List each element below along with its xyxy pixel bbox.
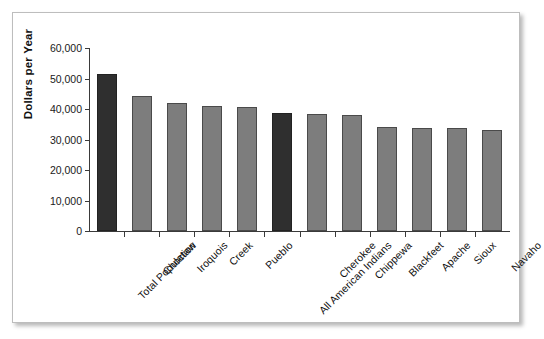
x-tick-label: Apache (439, 239, 473, 273)
bar (412, 128, 432, 231)
x-tick-mark (229, 232, 230, 237)
x-tick-label: Choctaw (160, 239, 198, 277)
y-axis-line (89, 48, 90, 231)
bar (97, 74, 117, 231)
x-tick-label: Iroquois (194, 239, 229, 274)
bar (482, 130, 502, 231)
x-tick-mark (335, 232, 336, 237)
y-tick-label: 40,000 (17, 103, 89, 115)
x-tick-mark (194, 232, 195, 237)
bar (307, 114, 327, 231)
y-tick-mark (85, 48, 89, 49)
y-tick-mark (85, 79, 89, 80)
bar (167, 103, 187, 231)
y-tick-mark (85, 109, 89, 110)
bar (237, 107, 257, 231)
bar (342, 115, 362, 231)
y-tick-label: 20,000 (17, 164, 89, 176)
x-tick-label: Creek (226, 239, 255, 268)
y-tick-label: 30,000 (17, 134, 89, 146)
y-tick-label: 10,000 (17, 195, 89, 207)
x-tick-label: Navaho (509, 239, 544, 274)
y-tick-label: 0 (17, 225, 89, 237)
y-tick-mark (85, 201, 89, 202)
x-tick-mark (159, 232, 160, 237)
bar (447, 128, 467, 231)
y-tick-mark (85, 231, 89, 232)
x-tick-mark (405, 232, 406, 237)
y-tick-mark (85, 140, 89, 141)
x-tick-mark (300, 232, 301, 237)
bar (272, 113, 292, 231)
x-tick-label: Sioux (471, 239, 498, 266)
x-tick-mark (475, 232, 476, 237)
plot-area: 010,00020,00030,00040,00050,00060,000 To… (89, 36, 510, 219)
x-tick-mark (124, 232, 125, 237)
x-tick-mark (440, 232, 441, 237)
x-tick-label: Pueblo (263, 239, 295, 271)
y-tick-mark (85, 170, 89, 171)
chart-figure: Dollars per Year 010,00020,00030,00040,0… (12, 12, 520, 323)
x-tick-mark (264, 232, 265, 237)
y-tick-label: 60,000 (17, 42, 89, 54)
bar (132, 96, 152, 231)
y-tick-label: 50,000 (17, 73, 89, 85)
bar (377, 127, 397, 231)
x-tick-mark (370, 232, 371, 237)
bar (202, 106, 222, 231)
